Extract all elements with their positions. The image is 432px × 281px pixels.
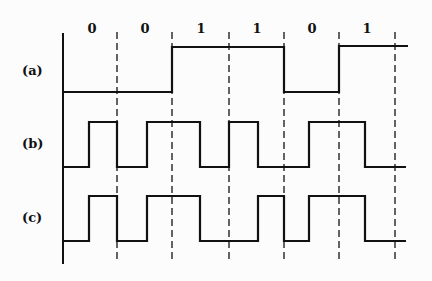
row-label-b: (b) (22, 136, 43, 151)
bit-label-2: 0 (140, 21, 149, 36)
encoding-waveform-diagram: 0 0 1 1 0 1 (a) (b) (c) (0, 0, 432, 281)
bit-label-6: 1 (362, 21, 371, 36)
row-label-a: (a) (22, 63, 43, 78)
waveform-svg (0, 0, 432, 281)
bit-label-3: 1 (196, 21, 205, 36)
bit-boundary-lines (117, 32, 395, 262)
bit-label-1: 0 (87, 21, 96, 36)
waveform-a (63, 46, 408, 92)
waveform-c (63, 196, 406, 241)
bit-label-5: 0 (307, 21, 316, 36)
row-label-c: (c) (22, 210, 42, 225)
bit-label-4: 1 (252, 21, 261, 36)
waveform-b (63, 122, 406, 167)
